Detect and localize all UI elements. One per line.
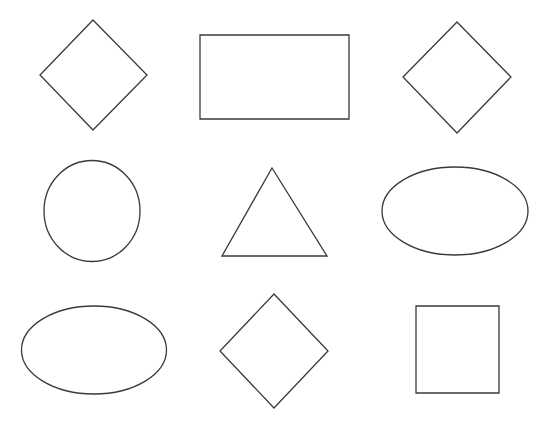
shape-rectangle-r1c2	[200, 35, 349, 119]
shape-circle-r2c1	[44, 161, 140, 262]
shape-ellipse-r3c1	[22, 306, 167, 394]
shape-diamond-r1c3	[403, 22, 511, 133]
shape-ellipse-r2c3	[382, 167, 528, 255]
shapes-svg	[0, 0, 551, 426]
shape-diamond-r3c2	[220, 294, 328, 408]
shape-triangle-r2c2	[222, 168, 327, 256]
shape-diamond-r1c1	[40, 20, 147, 130]
shape-square-r3c3	[416, 306, 499, 393]
shape-canvas: Geometric shapes grid	[0, 0, 551, 426]
